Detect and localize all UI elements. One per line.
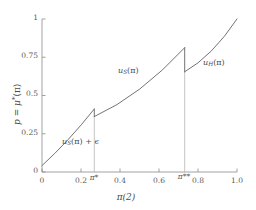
curve-segment-us [94,48,184,117]
pi-star-marker: π* [83,173,105,182]
y-title-space [12,116,22,119]
y-tick-label-0_75: 0.75 [12,51,38,60]
uh-arg: (π) [213,58,225,67]
use-plus: + [85,137,92,146]
use-epsilon: ϵ [94,137,98,146]
axis-lines [42,19,237,172]
x-tick-marks [42,169,237,173]
x-tick-label-0_4: 0.4 [108,176,132,185]
y-title-space2 [12,106,22,109]
pi-star-star-marker: π** [172,172,196,181]
x-tick-label-0_6: 0.6 [147,176,171,185]
us-arg: (π) [127,66,139,75]
y-axis-title: p = μ*(π) [10,84,22,125]
annotation-us-pi-plus-epsilon: uS(π) + ϵ [62,137,99,146]
y-tick-marks [42,19,46,172]
annotation-uh-pi: uH(π) [203,58,225,67]
y-title-arg: (π) [12,84,22,97]
x-axis-title: π(2) [117,192,136,202]
y-tick-label-1: 1 [12,13,38,22]
chart-figure: 0 0.25 0.5 0.75 1 0 0.2 0.4 0.6 0.8 1.0 … [0,0,256,210]
y-title-p: p [12,119,22,125]
y-tick-label-0: 0 [12,166,38,175]
x-tick-label-0: 0 [30,176,54,185]
y-tick-label-0_25: 0.25 [12,128,38,137]
y-title-star: * [10,97,19,101]
annotation-us-pi: uS(π) [118,66,139,75]
y-title-equals: = [12,109,22,117]
droplines [94,72,184,172]
use-arg: (π) [71,137,83,146]
x-tick-label-1_0: 1.0 [225,176,249,185]
y-title-mu: μ [12,100,22,106]
